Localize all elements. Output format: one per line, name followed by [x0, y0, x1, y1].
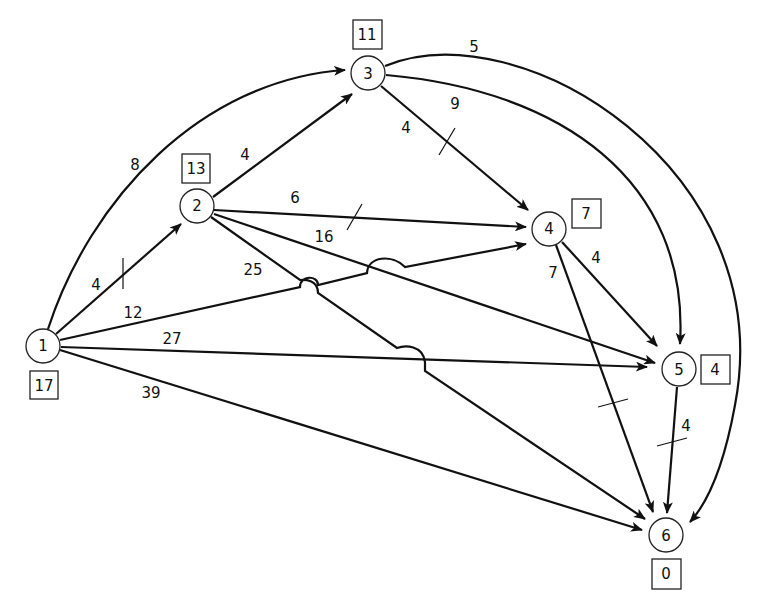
edge-2-4	[214, 210, 526, 227]
node-1: 1 17	[26, 329, 60, 399]
edge-weight-2-4: 6	[290, 189, 300, 207]
edge-weight-2-3: 4	[240, 146, 250, 164]
node-3-label: 3	[363, 65, 373, 83]
edge-4-6	[556, 245, 653, 512]
node-5-label: 5	[674, 361, 684, 379]
node-5-value: 4	[710, 361, 720, 379]
edge-4-5	[562, 242, 657, 346]
edge-weight-1-4: 12	[123, 304, 142, 322]
edge-2-3	[213, 94, 352, 197]
edge-weight-2-5: 16	[314, 228, 333, 246]
node-4-value: 7	[581, 205, 591, 223]
network-diagram: 4 8 12 27 39 4 6 16 25 4 9 5 4 7 4 1 17 …	[0, 0, 768, 609]
edge-weight-4-5: 4	[591, 249, 601, 267]
edge-weight-1-5: 27	[162, 330, 181, 348]
edge-weight-1-6: 39	[141, 384, 160, 402]
node-2-label: 2	[192, 197, 202, 215]
node-1-label: 1	[38, 337, 48, 355]
node-6: 6 0	[649, 518, 683, 589]
edge-3-4-tick	[439, 128, 455, 155]
edge-5-6	[667, 387, 677, 513]
edge-weight-4-6: 7	[548, 264, 558, 282]
edge-1-6	[60, 350, 642, 530]
edge-weight-1-2: 4	[91, 276, 101, 294]
node-3: 3 11	[351, 20, 385, 90]
node-2: 2 13	[180, 154, 214, 223]
edge-2-5	[214, 214, 655, 363]
node-4: 4 7	[532, 199, 601, 246]
edge-weight-1-3: 8	[130, 156, 140, 174]
edge-weight-2-6: 25	[243, 261, 262, 279]
edge-3-5	[386, 75, 681, 344]
edge-weight-5-6: 4	[681, 417, 691, 435]
edge-weight-3-4: 4	[401, 119, 411, 137]
node-3-value: 11	[357, 26, 376, 44]
edge-1-4	[60, 244, 526, 340]
node-6-label: 6	[661, 527, 671, 545]
node-5: 5 4	[662, 352, 730, 386]
edge-weight-3-5: 9	[450, 95, 460, 113]
node-4-label: 4	[544, 220, 554, 238]
node-6-value: 0	[661, 565, 671, 583]
edge-1-5	[61, 347, 647, 367]
edge-weight-3-6: 5	[469, 38, 479, 56]
node-1-value: 17	[34, 377, 53, 395]
node-2-value: 13	[186, 160, 205, 178]
